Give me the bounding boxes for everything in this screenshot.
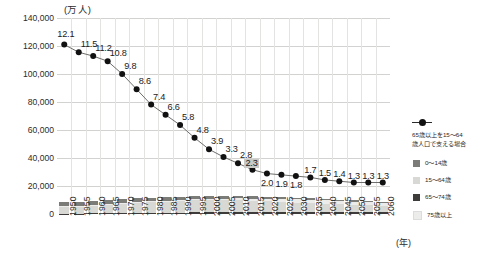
- x-axis-tick-label: 1950: [68, 196, 78, 216]
- y-axis-tick-label: 60,000: [4, 125, 54, 135]
- legend-item-c75up[interactable]: 75歳以上: [412, 210, 483, 220]
- x-axis-tick-label: 2000: [212, 196, 222, 216]
- line-marker[interactable]: [293, 173, 299, 179]
- legend-item-label: 65〜74歳: [425, 194, 451, 201]
- line-marker[interactable]: [221, 154, 227, 160]
- x-axis-tick-label: 2010: [241, 196, 251, 216]
- x-axis-tick-label: 2055: [372, 196, 382, 216]
- line-path: [64, 45, 383, 183]
- line-value-label: 1.9: [275, 180, 287, 189]
- y-axis-tick-label: 40,000: [4, 153, 54, 163]
- line-marker[interactable]: [264, 171, 270, 177]
- line-value-label: 3.9: [211, 137, 223, 146]
- line-value-label: 2.0: [261, 179, 273, 188]
- y-axis-tick-label: 20,000: [4, 181, 54, 191]
- line-value-label: 1.4: [333, 170, 345, 179]
- line-value-label: 1.5: [319, 169, 331, 178]
- line-value-label: 5.8: [182, 113, 194, 122]
- legend-swatch-icon: [413, 211, 422, 220]
- legend-series-label-line2: 歳人口で支える場合: [412, 140, 483, 149]
- x-axis-tick-label: 2045: [343, 196, 353, 216]
- line-marker[interactable]: [105, 58, 111, 64]
- line-value-label: 2.3: [244, 159, 258, 168]
- legend-item-c0014[interactable]: 0〜14歳: [412, 159, 483, 167]
- chart-legend: 65歳以上を15〜64 歳人口で支える場合 0〜14歳15〜64歳65〜74歳7…: [412, 116, 483, 229]
- x-axis-tick-label: 1995: [198, 196, 208, 216]
- line-marker[interactable]: [177, 122, 183, 128]
- line-marker[interactable]: [61, 42, 67, 48]
- line-value-label: 7.4: [153, 93, 165, 102]
- line-marker[interactable]: [76, 49, 82, 55]
- x-axis-tick-label: 1985: [169, 196, 179, 216]
- line-value-label: 4.8: [197, 126, 209, 135]
- x-axis-tick-label: 1965: [111, 196, 121, 216]
- line-marker[interactable]: [134, 86, 140, 92]
- line-marker[interactable]: [206, 146, 212, 152]
- legend-line-marker-row: [412, 116, 483, 127]
- x-axis-tick-label: 2020: [270, 196, 280, 216]
- legend-category-list: 0〜14歳15〜64歳65〜74歳75歳以上: [412, 159, 483, 220]
- line-marker-icon: [412, 118, 432, 127]
- x-axis-tick-label: 1955: [82, 196, 92, 216]
- line-value-label: 12.1: [57, 30, 74, 39]
- line-marker[interactable]: [148, 102, 154, 108]
- x-axis-tick-label: 1980: [155, 196, 165, 216]
- line-value-label: 9.8: [124, 62, 136, 71]
- x-axis-tick-label: 1975: [140, 196, 150, 216]
- line-value-label: 1.8: [290, 181, 302, 190]
- y-axis-tick-label: 120,000: [4, 41, 54, 51]
- x-axis-tick-label: 2005: [227, 196, 237, 216]
- x-axis-unit-caption: (年): [396, 236, 411, 249]
- line-value-label: 1.3: [362, 172, 374, 181]
- legend-series-label-line1: 65歳以上を15〜64: [412, 131, 483, 140]
- legend-item-c6574[interactable]: 65〜74歳: [412, 193, 483, 201]
- line-marker[interactable]: [119, 71, 125, 77]
- x-axis-tick-label: 2030: [299, 196, 309, 216]
- line-marker[interactable]: [235, 160, 241, 166]
- x-axis-tick-label: 1970: [126, 196, 136, 216]
- y-axis-unit-caption: (万人): [64, 2, 91, 16]
- legend-swatch-icon: [413, 160, 420, 167]
- chart-root: (万人) 140,000120,000100,00080,00060,00040…: [0, 0, 483, 262]
- x-axis-tick-label: 2050: [357, 196, 367, 216]
- y-axis-tick-label: 0: [4, 209, 54, 219]
- line-value-label: 1.7: [304, 166, 316, 175]
- line-value-label: 8.6: [139, 77, 151, 86]
- legend-item-label: 75歳以上: [427, 212, 452, 219]
- x-axis-tick-label: 2035: [314, 196, 324, 216]
- line-marker[interactable]: [192, 135, 198, 141]
- line-marker[interactable]: [163, 112, 169, 118]
- x-axis-tick-label: 2015: [256, 196, 266, 216]
- legend-item-label: 0〜14歳: [425, 160, 447, 167]
- x-axis-tick-label: 1960: [97, 196, 107, 216]
- line-marker[interactable]: [278, 172, 284, 178]
- line-value-label: 1.3: [348, 172, 360, 181]
- y-axis-tick-label: 100,000: [4, 69, 54, 79]
- line-value-label: 1.3: [377, 172, 389, 181]
- y-axis-tick-label: 140,000: [4, 13, 54, 23]
- legend-series-line: 65歳以上を15〜64 歳人口で支える場合: [412, 116, 483, 149]
- legend-swatch-icon: [413, 194, 420, 201]
- line-marker[interactable]: [90, 53, 96, 59]
- x-axis-tick-label: 2040: [328, 196, 338, 216]
- line-value-label: 10.8: [110, 49, 127, 58]
- x-axis-tick-label: 2060: [386, 196, 396, 216]
- y-axis-tick-labels: 140,000120,000100,00080,00060,00040,0002…: [0, 18, 54, 214]
- y-axis-tick-label: 80,000: [4, 97, 54, 107]
- legend-item-label: 15〜64歳: [425, 177, 451, 184]
- line-value-label: 3.3: [226, 145, 238, 154]
- x-axis-tick-label: 2025: [285, 196, 295, 216]
- legend-item-c1564[interactable]: 15〜64歳: [412, 176, 483, 184]
- line-value-label: 6.6: [168, 103, 180, 112]
- legend-swatch-icon: [413, 177, 420, 184]
- x-axis-tick-label: 1990: [183, 196, 193, 216]
